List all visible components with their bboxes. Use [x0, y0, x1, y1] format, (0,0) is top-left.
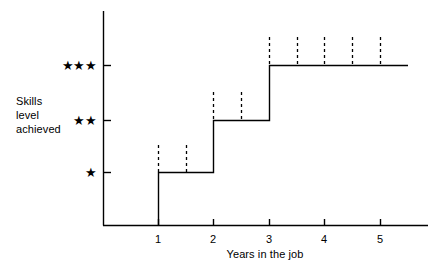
x-tick-label-1: 1: [155, 234, 161, 245]
x-axis-title: Years in the job: [226, 248, 303, 260]
skills-progression-chart: Skills level achieved ★★★ ★★ ★ 1 2 3 4 5…: [0, 0, 441, 273]
skills-step-line: [159, 66, 409, 226]
chart-plot-area: [0, 0, 441, 273]
y-tick-label-2-star: ★★: [73, 114, 96, 127]
y-tick-label-3-star: ★★★: [62, 59, 97, 72]
dashed-markers-level-2: [214, 92, 242, 120]
dashed-markers-level-3: [270, 37, 381, 65]
y-tick-label-1-star: ★: [85, 166, 97, 179]
y-axis-title-line-3: achieved: [16, 122, 61, 136]
x-tick-label-4: 4: [321, 234, 327, 245]
y-axis-title: Skills level achieved: [16, 94, 61, 136]
x-tick-label-2: 2: [210, 234, 216, 245]
x-tick-label-3: 3: [266, 234, 272, 245]
y-axis-title-line-1: Skills: [16, 94, 61, 108]
y-axis-ticks: [104, 66, 112, 173]
y-axis-title-line-2: level: [16, 108, 61, 122]
x-axis-ticks: [159, 219, 381, 226]
dashed-markers-level-1: [159, 145, 187, 172]
x-tick-label-5: 5: [377, 234, 383, 245]
